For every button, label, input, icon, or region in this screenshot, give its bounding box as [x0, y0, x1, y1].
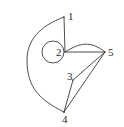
- edge-1-4-curve: [27, 17, 64, 112]
- label-node-1: 1: [68, 10, 74, 22]
- edge-4-5: [64, 52, 105, 112]
- node-5: [104, 51, 106, 53]
- label-node-5: 5: [108, 46, 114, 58]
- edge-3-4: [64, 80, 73, 112]
- graph-diagram: 1 2 3 4 5: [0, 0, 124, 127]
- node-1: [63, 16, 65, 18]
- label-node-4: 4: [62, 113, 68, 125]
- node-2: [64, 51, 66, 53]
- edge-1-2: [64, 17, 65, 52]
- edge-2-5-curve: [65, 44, 105, 52]
- graph-svg: 1 2 3 4 5: [0, 0, 124, 127]
- label-node-3: 3: [67, 70, 73, 82]
- label-node-2: 2: [56, 46, 62, 58]
